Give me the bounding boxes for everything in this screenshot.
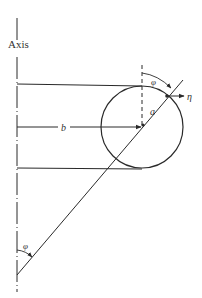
bottom-tangent-line xyxy=(17,168,142,169)
axis-label: Axis xyxy=(8,38,29,50)
b-label: b xyxy=(61,122,66,133)
angle-phi-ray xyxy=(17,80,183,275)
top-tangent-line xyxy=(17,84,142,86)
top-phi-label: φ xyxy=(151,77,156,87)
eta-label: η xyxy=(187,91,192,102)
torus-cross-section-diagram: Axis b a φ φ η xyxy=(0,0,202,298)
bottom-phi-angle-arc xyxy=(17,250,32,257)
bottom-phi-label: φ xyxy=(23,241,28,251)
center-point xyxy=(141,123,144,126)
a-label: a xyxy=(150,106,155,117)
